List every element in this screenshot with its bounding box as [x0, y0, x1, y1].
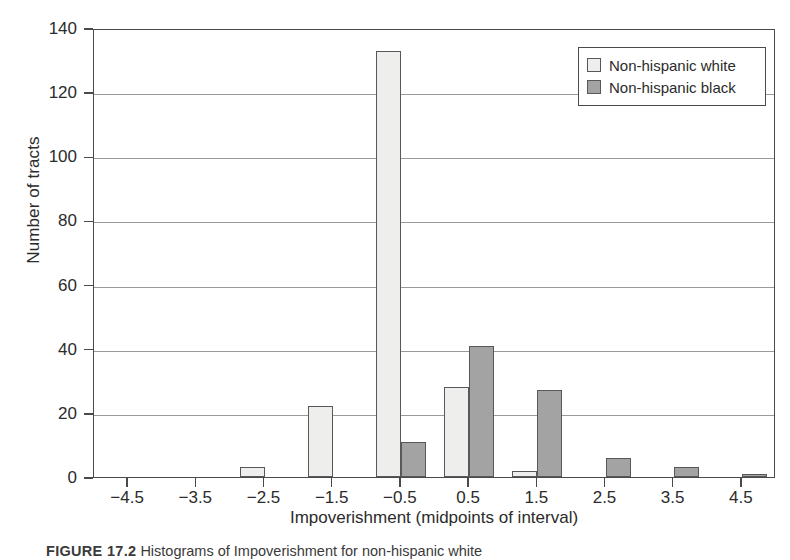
- caption-label: FIGURE 17.2: [46, 543, 136, 559]
- y-axis-tick-label: 40: [17, 341, 77, 358]
- x-axis-tick: [536, 478, 537, 487]
- y-axis-tick-label: 100: [17, 148, 77, 165]
- x-axis-tick-label: 0.5: [433, 489, 503, 506]
- x-axis-tick: [126, 478, 127, 487]
- x-axis-tick-label: −3.5: [160, 489, 230, 506]
- x-axis-tick-label: 1.5: [501, 489, 571, 506]
- y-axis-tick: [84, 92, 93, 93]
- bar: [674, 467, 699, 477]
- x-axis-tick: [604, 478, 605, 487]
- bar: [606, 458, 631, 477]
- x-axis-tick-label: −1.5: [297, 489, 367, 506]
- gridline: [94, 222, 774, 223]
- x-axis-tick: [467, 478, 468, 487]
- bar: [308, 406, 333, 477]
- x-axis-tick: [672, 478, 673, 487]
- x-axis-title: Impoverishment (midpoints of interval): [93, 508, 775, 528]
- x-axis-tick-label: 2.5: [570, 489, 640, 506]
- bar: [537, 390, 562, 477]
- x-axis-tick-label: −0.5: [365, 489, 435, 506]
- bar: [444, 387, 469, 477]
- y-axis-tick: [84, 157, 93, 158]
- x-axis-tick: [263, 478, 264, 487]
- legend: Non-hispanic whiteNon-hispanic black: [578, 47, 766, 106]
- legend-swatch-icon: [587, 80, 601, 94]
- y-axis-tick-label: 120: [17, 84, 77, 101]
- gridline: [94, 415, 774, 416]
- bar: [512, 471, 537, 477]
- x-axis-tick-label: 4.5: [706, 489, 776, 506]
- x-axis-tick: [195, 478, 196, 487]
- bar: [469, 346, 494, 478]
- bar: [240, 467, 265, 477]
- legend-label: Non-hispanic white: [609, 57, 736, 74]
- bar: [376, 51, 401, 478]
- x-axis-tick-label: −4.5: [92, 489, 162, 506]
- figure-root: Number of tracts Impoverishment (midpoin…: [0, 0, 790, 560]
- y-axis-tick: [84, 413, 93, 414]
- y-axis-tick: [84, 349, 93, 350]
- x-axis-tick-label: −2.5: [229, 489, 299, 506]
- legend-swatch-icon: [587, 58, 601, 72]
- bar: [742, 474, 767, 477]
- y-axis-tick-label: 80: [17, 212, 77, 229]
- y-axis-tick-label: 140: [17, 20, 77, 37]
- y-axis-tick-label: 0: [17, 469, 77, 486]
- y-axis-tick: [84, 285, 93, 286]
- x-axis-tick-label: 3.5: [638, 489, 708, 506]
- bar: [401, 442, 426, 477]
- legend-label: Non-hispanic black: [609, 79, 736, 96]
- legend-item: Non-hispanic white: [587, 54, 757, 76]
- caption-text: Histograms of Impoverishment for non-his…: [140, 543, 482, 559]
- x-axis-tick: [399, 478, 400, 487]
- x-axis-tick: [740, 478, 741, 487]
- figure-caption: FIGURE 17.2 Histograms of Impoverishment…: [46, 543, 766, 559]
- gridline: [94, 158, 774, 159]
- y-axis-tick: [84, 221, 93, 222]
- x-axis-tick: [331, 478, 332, 487]
- y-axis-tick-label: 20: [17, 405, 77, 422]
- y-axis-tick-label: 60: [17, 277, 77, 294]
- y-axis-tick: [84, 477, 93, 478]
- gridline: [94, 351, 774, 352]
- y-axis-tick: [84, 28, 93, 29]
- legend-item: Non-hispanic black: [587, 76, 757, 98]
- gridline: [94, 287, 774, 288]
